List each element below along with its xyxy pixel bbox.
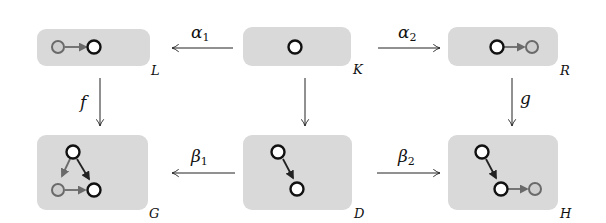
object-label-H: H (559, 206, 572, 221)
graph-L: L (37, 29, 160, 78)
object-label-L: L (150, 63, 160, 78)
graph-box-G (37, 135, 148, 210)
graph-R: R (448, 27, 570, 78)
graph-box-D (243, 135, 352, 210)
graph-K: K (243, 27, 364, 77)
object-label-D: D (353, 206, 365, 221)
morphism-beta1: β1 (172, 146, 235, 173)
node-R-2 (526, 41, 538, 53)
label-beta2: β2 (397, 146, 415, 168)
morphism-f: f (78, 78, 100, 126)
node-H-2 (495, 183, 508, 196)
node-G-right (88, 184, 101, 197)
node-G-top (67, 146, 80, 159)
label-alpha1: α1 (191, 22, 209, 44)
node-H-1 (476, 146, 489, 159)
node-G-left (52, 184, 64, 196)
object-label-R: R (559, 63, 570, 78)
node-R-1 (491, 41, 504, 54)
node-L-1 (52, 41, 64, 53)
morphism-beta2: β2 (377, 146, 440, 173)
label-beta1: β1 (190, 146, 208, 168)
morphism-alpha1: α1 (172, 22, 233, 48)
morphism-g: g (512, 78, 531, 126)
node-H-3 (529, 183, 541, 195)
node-L-2 (88, 41, 101, 54)
graph-H: H (448, 135, 572, 221)
label-alpha2: α2 (398, 22, 416, 44)
graph-box-H (448, 135, 558, 210)
morphism-alpha2: α2 (378, 22, 440, 48)
object-label-G: G (149, 206, 159, 221)
node-D-2 (291, 183, 304, 196)
node-D-1 (272, 146, 285, 159)
label-g: g (520, 88, 531, 108)
graph-D: D (243, 135, 365, 221)
label-f: f (78, 92, 89, 112)
object-label-K: K (352, 62, 364, 77)
graph-G: G (37, 135, 159, 221)
node-K-1 (289, 41, 302, 54)
double-pushout-diagram: L K R G D H (0, 0, 606, 223)
